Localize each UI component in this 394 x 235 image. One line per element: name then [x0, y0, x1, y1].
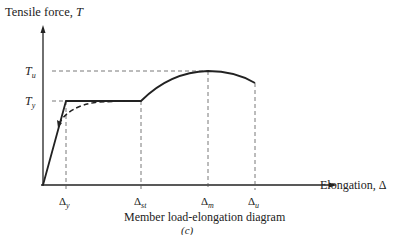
delta-u-label: Δu [248, 195, 259, 210]
load-elongation-diagram: Tensile force, T Tu Ty Δy Δst Δm Δu Elon… [0, 0, 394, 235]
subcaption: (c) [181, 224, 194, 235]
idealized-curve [43, 71, 255, 185]
y-axis-arrow [41, 25, 46, 33]
tu-label: Tu [25, 64, 36, 80]
delta-st-label: Δst [134, 195, 147, 210]
x-axis-label: Elongation, Δ [320, 178, 387, 192]
actual-curve-dashed [59, 101, 125, 124]
delta-y-label: Δy [59, 195, 70, 210]
ty-label: Ty [25, 94, 36, 110]
caption: Member load-elongation diagram [124, 210, 286, 224]
delta-m-label: Δm [201, 195, 214, 210]
y-axis-label: Tensile force, T [5, 5, 84, 19]
